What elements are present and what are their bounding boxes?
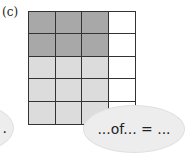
grid-cell-dark: [29, 34, 56, 56]
grid-cell-light: [29, 57, 56, 79]
grid-cell-dark: [56, 34, 83, 56]
grid-cell-light: [29, 79, 56, 101]
grid-cell-empty: [109, 57, 136, 79]
answer-bubble-text: ...of... = ...: [97, 121, 170, 137]
grid-cell-empty: [109, 79, 136, 101]
answer-bubble: ...of... = ...: [83, 105, 185, 153]
grid-cell-light: [56, 79, 83, 101]
part-label: (c): [2, 5, 18, 19]
grid-cell-light: [82, 57, 109, 79]
grid-cell-dark: [82, 34, 109, 56]
answer-bubble-left: .: [0, 105, 14, 151]
grid-cell-light: [82, 79, 109, 101]
grid-cell-light: [29, 102, 56, 124]
grid-cell-dark: [82, 12, 109, 34]
grid-cell-empty: [109, 34, 136, 56]
grid-cell-dark: [56, 12, 83, 34]
grid-cell-empty: [109, 12, 136, 34]
grid-cell-dark: [29, 12, 56, 34]
answer-bubble-left-text: .: [3, 120, 7, 136]
grid-cell-light: [56, 57, 83, 79]
grid-cell-light: [56, 102, 83, 124]
